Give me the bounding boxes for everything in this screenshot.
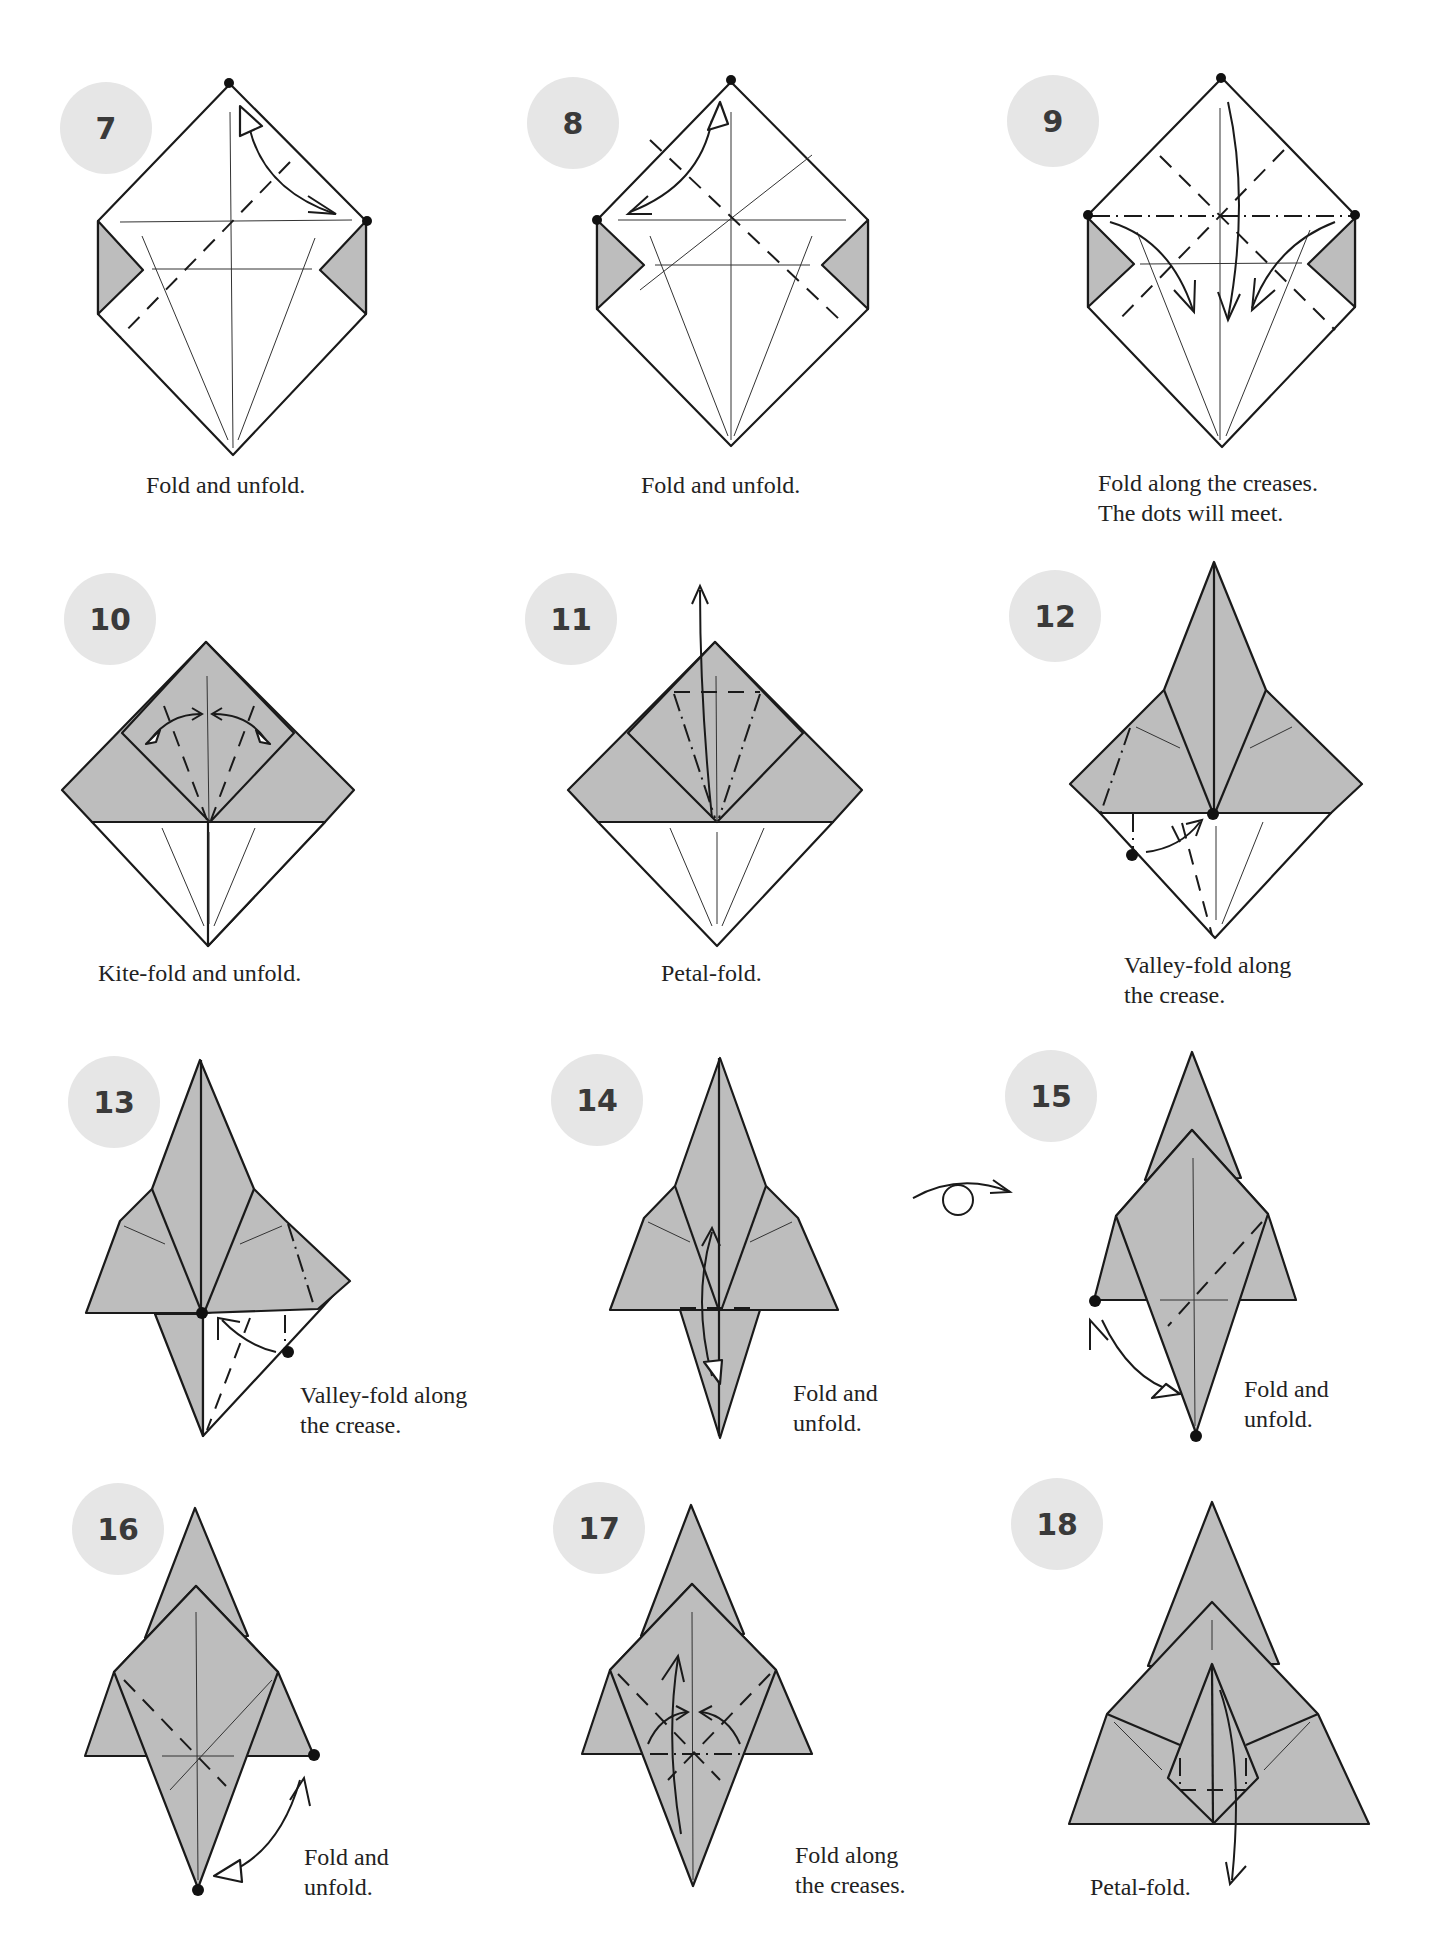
step-caption: Petal-fold. (1090, 1872, 1191, 1902)
diagram-step-18 (0, 0, 1439, 1952)
